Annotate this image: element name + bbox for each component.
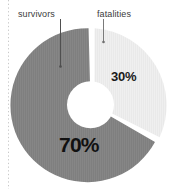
survivors-leader-dot <box>59 65 62 68</box>
slice-value-survivors: 70% <box>59 133 99 157</box>
fatalities-leader-dot <box>102 41 105 44</box>
slice-label-survivors: survivors <box>18 9 55 19</box>
slice-label-fatalities: fatalities <box>97 9 131 19</box>
donut-chart-graphics <box>0 0 169 189</box>
donut-chart: survivors fatalities 30% 70% <box>0 0 169 189</box>
slice-value-fatalities: 30% <box>111 69 136 84</box>
donut-hole <box>67 81 114 128</box>
